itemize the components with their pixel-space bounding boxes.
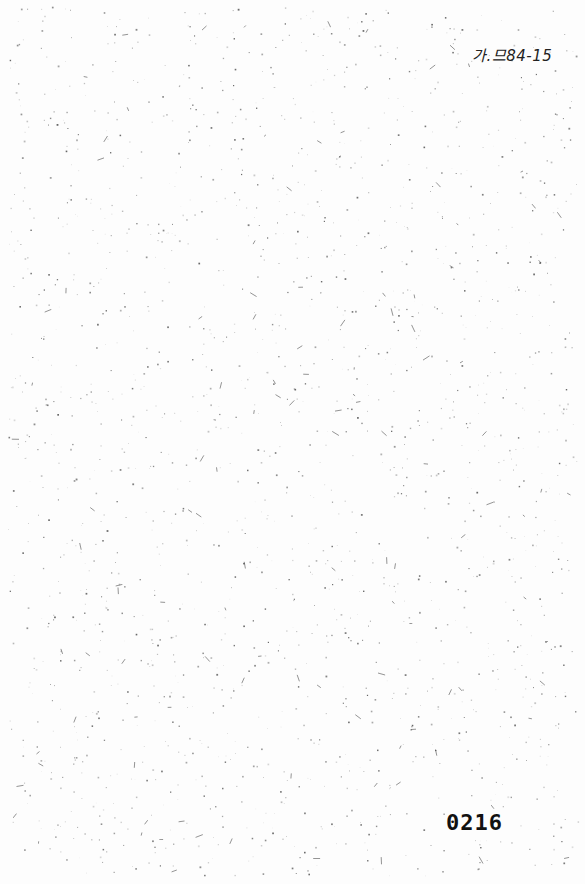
scanned-page: 가.므84-15 0216	[0, 0, 585, 884]
handwritten-reference: 가.므84-15	[472, 44, 552, 65]
page-number: 0216	[446, 810, 503, 835]
scan-noise	[0, 0, 585, 884]
